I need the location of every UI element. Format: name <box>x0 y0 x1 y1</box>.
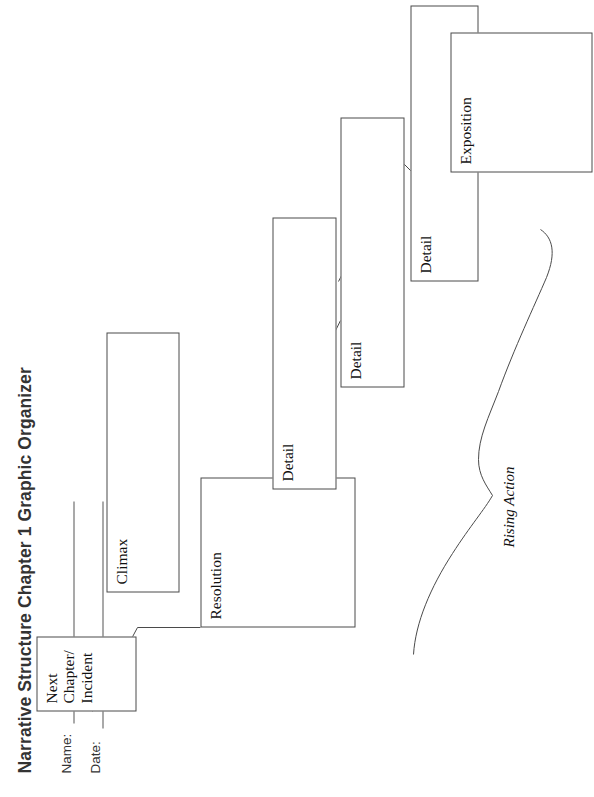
rising-action-label: Rising Action <box>500 466 517 547</box>
box-exposition-label: Exposition <box>456 97 473 164</box>
box-detail-2-label: Detail <box>346 341 363 379</box>
box-next-chapter[interactable]: Next Chapter/ Incident <box>36 636 136 711</box>
box-detail-1-label: Detail <box>278 443 295 481</box>
box-climax-label: Climax <box>112 538 129 584</box>
worksheet-page: Narrative Structure Chapter 1 Graphic Or… <box>0 0 594 797</box>
box-climax[interactable]: Climax <box>106 332 179 592</box>
box-exposition[interactable]: Exposition <box>450 32 592 172</box>
box-detail-2[interactable]: Detail <box>340 117 404 387</box>
box-detail-1[interactable]: Detail <box>272 217 336 489</box>
box-next-chapter-label: Next Chapter/ Incident <box>42 650 94 703</box>
box-resolution[interactable]: Resolution <box>200 477 355 627</box>
rising-action-brace-curve <box>413 229 552 654</box>
worksheet-sheet: Narrative Structure Chapter 1 Graphic Or… <box>0 0 594 797</box>
box-resolution-label: Resolution <box>206 552 223 619</box>
box-detail-3-label: Detail <box>416 235 433 273</box>
